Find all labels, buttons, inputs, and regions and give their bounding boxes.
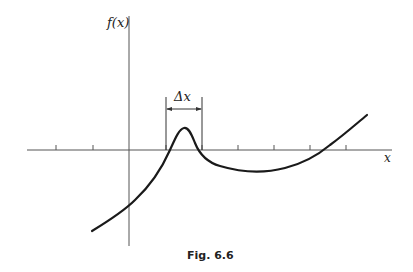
figure-canvas	[0, 0, 413, 272]
delta-x-bracket	[166, 97, 202, 150]
delta-x-label: Δx	[174, 89, 191, 104]
x-axis-ticks	[56, 145, 346, 150]
x-axis-label: x	[384, 151, 391, 165]
y-axis-label: f(x)	[107, 15, 129, 30]
function-curve	[92, 115, 367, 231]
figure-caption: Fig. 6.6	[187, 249, 234, 262]
